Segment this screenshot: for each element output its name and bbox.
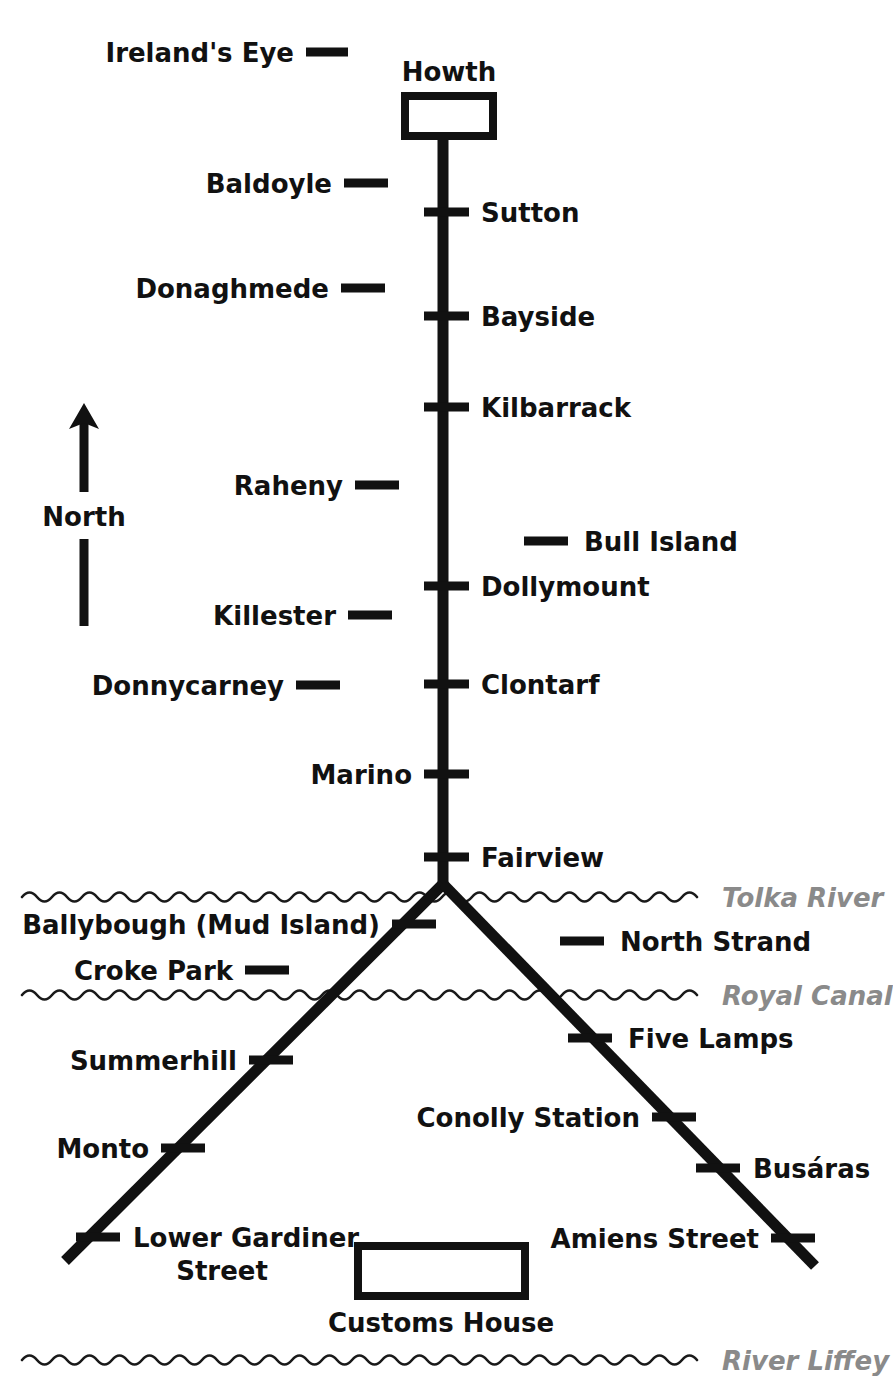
label-irelands-eye: Ireland's Eye (105, 38, 294, 68)
label-conolly-station: Conolly Station (416, 1103, 640, 1133)
label-kilbarrack: Kilbarrack (481, 393, 632, 423)
customs-house-box[interactable] (358, 1246, 525, 1296)
label-dollymount: Dollymount (481, 572, 650, 602)
label-ballybough: Ballybough (Mud Island) (22, 910, 380, 940)
route-group (65, 136, 815, 1266)
label-sutton: Sutton (481, 198, 579, 228)
label-donaghmede: Donaghmede (135, 274, 329, 304)
label-royal-canal: Royal Canal (722, 981, 893, 1011)
label-monto: Monto (56, 1134, 149, 1164)
label-croke-park: Croke Park (74, 956, 234, 986)
label-amiens-street: Amiens Street (551, 1224, 759, 1254)
label-fairview: Fairview (481, 843, 604, 873)
royal-canal-wave (22, 991, 697, 1000)
label-marino: Marino (310, 760, 412, 790)
howth-terminus-box[interactable] (405, 96, 493, 136)
label-north: North (42, 502, 125, 532)
label-lower-gardiner-street-line1: Lower Gardiner (133, 1223, 359, 1253)
label-river-liffey: River Liffey (722, 1346, 890, 1376)
label-killester: Killester (213, 601, 336, 631)
label-baldoyle: Baldoyle (206, 169, 332, 199)
label-donnycarney: Donnycarney (92, 671, 284, 701)
diagram-canvas: Howth Customs House Ireland's Eye Baldoy… (0, 0, 893, 1391)
label-clontarf: Clontarf (481, 670, 600, 700)
label-howth: Howth (402, 57, 497, 87)
label-busaras: Busáras (753, 1154, 870, 1184)
label-summerhill: Summerhill (70, 1046, 237, 1076)
tram-line-diagram: Howth Customs House Ireland's Eye Baldoy… (0, 0, 893, 1391)
river-liffey-wave (22, 1356, 697, 1365)
tolka-river-wave (22, 893, 697, 902)
label-north-strand: North Strand (620, 927, 811, 957)
label-tolka-river: Tolka River (722, 883, 886, 913)
label-customs-house: Customs House (328, 1308, 554, 1338)
label-bull-island: Bull Island (584, 527, 738, 557)
label-five-lamps: Five Lamps (628, 1024, 794, 1054)
label-lower-gardiner-street-line2: Street (176, 1256, 268, 1286)
label-raheny: Raheny (234, 471, 343, 501)
label-bayside: Bayside (481, 302, 595, 332)
